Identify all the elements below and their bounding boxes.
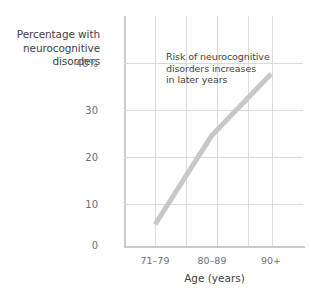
chart-annotation: Risk of neurocognitive disorders increas…	[166, 51, 290, 86]
y-tick-label-20: 20	[58, 153, 98, 163]
gridline-horizontal-10	[124, 204, 303, 205]
y-tick-label-40: 40%	[58, 59, 98, 69]
gridline-horizontal-30	[124, 110, 303, 111]
y-tick-label-0: 0	[58, 241, 98, 251]
y-axis-line	[124, 16, 126, 248]
y-axis-title-line-2: neurocognitive	[4, 42, 100, 56]
chart-annotation-line-3: in later years	[166, 74, 290, 86]
y-axis-title-line-1: Percentage with	[4, 28, 100, 42]
chart-annotation-line-1: Risk of neurocognitive	[166, 51, 290, 63]
gridline-vertical-1	[155, 16, 156, 246]
x-axis-title: Age (years)	[124, 272, 305, 284]
y-tick-label-30: 30	[58, 106, 98, 116]
x-tick-label-90-plus: 90+	[236, 255, 306, 266]
x-axis-line	[124, 246, 305, 248]
gridline-horizontal-20	[124, 157, 303, 158]
neurocognitive-disorders-line-chart: Percentage with neurocognitive disorders…	[0, 0, 311, 293]
y-tick-label-10: 10	[58, 200, 98, 210]
chart-annotation-line-2: disorders increases	[166, 63, 290, 75]
